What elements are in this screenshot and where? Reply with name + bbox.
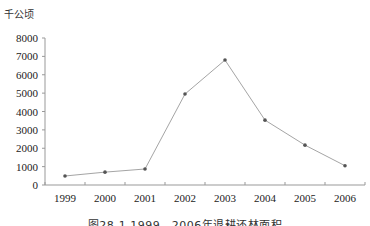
y-tick-label: 1000 <box>16 161 39 173</box>
y-tick-label: 5000 <box>16 87 39 99</box>
line-chart: 010002000300040005000600070008000 199920… <box>0 0 370 226</box>
y-tick-label: 4000 <box>16 106 39 118</box>
x-tick-label: 2002 <box>174 192 196 204</box>
data-point-marker <box>143 167 147 171</box>
data-series <box>63 58 347 178</box>
x-tick-label: 2001 <box>134 192 156 204</box>
x-axis: 19992000200120022003200420052006 <box>45 182 365 204</box>
x-tick-label: 1999 <box>54 192 77 204</box>
y-tick-label: 0 <box>33 179 39 191</box>
x-tick-label: 2006 <box>334 192 357 204</box>
data-point-marker <box>63 174 67 178</box>
x-tick-label: 2005 <box>294 192 317 204</box>
y-tick-label: 7000 <box>16 50 39 62</box>
x-tick-label: 2003 <box>214 192 237 204</box>
figure-caption: 图28-1 1999—2006年退耕还林面积 <box>0 216 370 226</box>
series-line <box>65 60 345 176</box>
data-point-marker <box>103 170 107 174</box>
y-tick-label: 6000 <box>16 69 39 81</box>
x-tick-label: 2000 <box>94 192 117 204</box>
y-tick-label: 3000 <box>16 124 39 136</box>
data-point-marker <box>343 164 347 168</box>
y-axis: 010002000300040005000600070008000 <box>16 32 45 191</box>
data-point-marker <box>263 118 267 122</box>
x-tick-label: 2004 <box>254 192 277 204</box>
data-point-marker <box>183 92 187 96</box>
y-tick-label: 2000 <box>16 142 39 154</box>
data-point-marker <box>223 58 227 62</box>
data-point-marker <box>303 143 307 147</box>
y-tick-label: 8000 <box>16 32 39 44</box>
